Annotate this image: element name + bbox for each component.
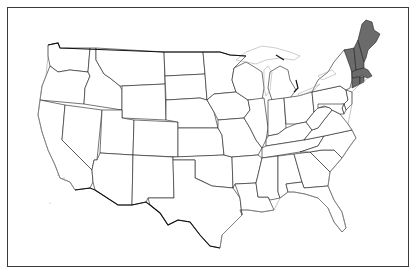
island-dot [49,202,50,203]
state-kansas[interactable] [178,128,224,157]
channel-island [57,174,58,175]
lake-superior-shore [276,55,284,60]
state-new-mexico[interactable] [132,155,174,205]
state-south-dakota[interactable] [165,74,207,100]
state-florida[interactable] [286,182,346,232]
lake-superior [236,46,300,64]
state-rhode-island[interactable] [360,77,364,84]
state-north-dakota[interactable] [164,52,205,76]
state-connecticut[interactable] [352,77,360,88]
state-washington[interactable] [48,43,90,72]
state-colorado[interactable] [133,120,178,157]
state-wyoming[interactable] [122,84,166,120]
state-oregon[interactable] [40,66,90,104]
channel-island [63,177,64,178]
state-arizona[interactable] [92,153,133,205]
state-michigan[interactable] [268,66,296,100]
